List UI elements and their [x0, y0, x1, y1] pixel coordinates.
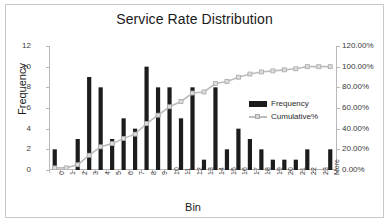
cumulative-marker — [271, 69, 275, 73]
y-axis-right-tick — [337, 149, 340, 150]
cumulative-marker — [259, 70, 263, 74]
y-axis-right-tick-label: 20.00% — [342, 145, 369, 153]
x-axis-tick-label: 10 — [173, 167, 180, 175]
y-axis-right-tick-label: 0.00% — [342, 166, 365, 174]
cumulative-marker — [133, 132, 137, 136]
cumulative-marker — [225, 79, 229, 83]
cumulative-marker — [202, 90, 206, 94]
bar — [213, 87, 217, 170]
y-axis-right-tick-label: 100.00% — [342, 63, 374, 71]
bar — [236, 129, 240, 170]
bar — [156, 87, 160, 170]
cumulative-marker — [236, 75, 240, 79]
chart-legend: Frequency Cumulative% — [249, 97, 318, 123]
x-axis-tick-label: 7 — [138, 171, 145, 175]
legend-item-cumulative: Cumulative% — [249, 110, 318, 123]
y-axis-left-tick-label: 12 — [22, 42, 31, 50]
x-axis-title: Bin — [49, 201, 337, 213]
x-axis-tick-label: 9 — [161, 171, 168, 175]
bar — [144, 67, 148, 170]
x-axis-tick-label: 4 — [104, 171, 111, 175]
cumulative-marker — [53, 166, 57, 170]
y-axis-left-tick-label: 2 — [27, 145, 31, 153]
legend-bar-swatch-icon — [249, 101, 267, 107]
cumulative-marker — [156, 113, 160, 117]
y-axis-right-tick — [337, 108, 340, 109]
cumulative-marker — [248, 72, 252, 76]
x-axis-tick-label: 12 — [196, 167, 203, 175]
x-axis-tick-label: 21 — [299, 167, 306, 175]
chart-title: Service Rate Distribution — [6, 11, 383, 27]
x-axis-tick-label: 16 — [241, 167, 248, 175]
bar — [167, 87, 171, 170]
bar — [248, 139, 252, 170]
x-axis-tick-label: 15 — [230, 167, 237, 175]
cumulative-marker — [282, 68, 286, 72]
cumulative-marker — [305, 65, 309, 69]
chart-frame: Service Rate Distribution Frequency Bin … — [5, 4, 384, 218]
y-axis-right-tick-label: 40.00% — [342, 125, 369, 133]
x-axis-tick-label: 6 — [127, 171, 134, 175]
bar — [99, 87, 103, 170]
legend-item-frequency: Frequency — [249, 97, 318, 110]
x-axis-tick-label: 17 — [253, 167, 260, 175]
bar — [271, 160, 275, 170]
x-axis-tick-label: 18 — [264, 167, 271, 175]
y-axis-right-tick — [337, 46, 340, 47]
x-axis-tick-label: 8 — [150, 171, 157, 175]
legend-label-frequency: Frequency — [271, 99, 309, 108]
y-axis-left-tick-label: 8 — [27, 83, 31, 91]
cumulative-marker — [110, 142, 114, 146]
y-axis-right-tick-label: 60.00% — [342, 104, 369, 112]
cumulative-marker — [179, 99, 183, 103]
cumulative-marker — [191, 91, 195, 95]
bar — [122, 118, 126, 170]
y-axis-right-tick — [337, 87, 340, 88]
bar — [225, 149, 229, 170]
x-axis-tick-label: 0 — [58, 171, 65, 175]
cumulative-marker — [168, 105, 172, 109]
y-axis-right-tick-label: 80.00% — [342, 83, 369, 91]
x-axis-tick-label: 3 — [92, 171, 99, 175]
y-axis-left-tick-label: 4 — [27, 125, 31, 133]
cumulative-marker — [213, 82, 217, 86]
cumulative-marker — [145, 122, 149, 126]
x-axis-tick-label: More — [333, 159, 340, 175]
x-axis-tick-label: 5 — [115, 171, 122, 175]
x-axis-tick-label: 13 — [207, 167, 214, 175]
x-axis-tick-label: 23 — [322, 167, 329, 175]
x-axis-tick-label: 11 — [184, 168, 191, 175]
x-axis-tick-label: 14 — [218, 167, 225, 175]
bar — [179, 118, 183, 170]
y-axis-right-tick-label: 120.00% — [342, 42, 374, 50]
legend-line-swatch-icon — [249, 113, 267, 120]
y-axis-left-tick-label: 0 — [27, 166, 31, 174]
y-axis-right-tick — [337, 129, 340, 130]
cumulative-marker — [87, 153, 91, 157]
x-axis-tick — [49, 170, 50, 173]
cumulative-marker — [328, 65, 332, 69]
x-axis-tick-label: 1 — [69, 171, 76, 175]
x-axis-tick-label: 2 — [81, 171, 88, 175]
cumulative-marker — [317, 65, 321, 69]
cumulative-marker — [294, 67, 298, 71]
x-axis-tick-label: 19 — [276, 167, 283, 175]
cumulative-marker — [64, 166, 68, 170]
legend-label-cumulative: Cumulative% — [271, 112, 318, 121]
cumulative-marker — [122, 136, 126, 140]
y-axis-left-tick-label: 6 — [27, 104, 31, 112]
y-axis-left-tick-label: 10 — [22, 63, 31, 71]
x-axis-tick-label: 22 — [310, 167, 317, 175]
bar — [294, 160, 298, 170]
cumulative-marker — [76, 163, 80, 167]
cumulative-marker — [99, 145, 103, 149]
x-axis-tick-label: 20 — [287, 167, 294, 175]
y-axis-right-tick — [337, 67, 340, 68]
bar — [190, 87, 194, 170]
